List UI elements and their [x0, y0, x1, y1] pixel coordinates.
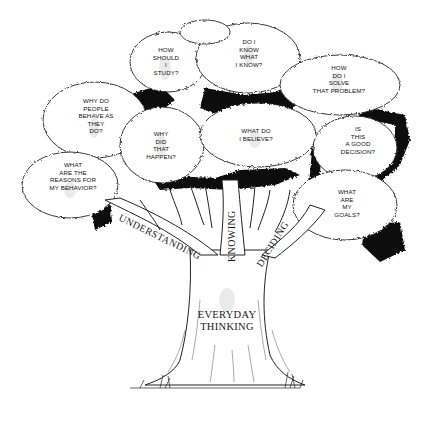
question-do-i-know-what-i-know: DO I KNOW WHAT I KNOW? — [229, 38, 269, 68]
question-what-are-my-goals: WHAT ARE MY GOALS? — [325, 188, 369, 218]
question-is-this-a-good-decision: IS THIS A GOOD DECISION? — [335, 125, 381, 155]
trunk-and-branches — [105, 180, 325, 385]
question-why-did-that-happen: WHY DID THAT HAPPEN? — [140, 130, 182, 160]
tree-diagram: HOW SHOULD I STUDY? DO I KNOW WHAT I KNO… — [0, 0, 430, 430]
trunk-label-everyday-thinking: EVERYDAY THINKING — [195, 309, 259, 333]
question-what-do-i-believe: WHAT DO I BELIEVE? — [233, 127, 279, 142]
question-reasons-for-behavior: WHAT ARE THE REASONS FOR MY BEHAVIOR? — [42, 161, 104, 191]
branch-label-knowing: KNOWING — [226, 210, 237, 262]
question-how-do-i-solve: HOW DO I SOLVE THAT PROBLEM? — [307, 64, 371, 94]
question-why-do-people-behave: WHY DO PEOPLE BEHAVE AS THEY DO? — [74, 97, 118, 135]
question-how-should-i-study: HOW SHOULD I STUDY? — [146, 46, 186, 76]
